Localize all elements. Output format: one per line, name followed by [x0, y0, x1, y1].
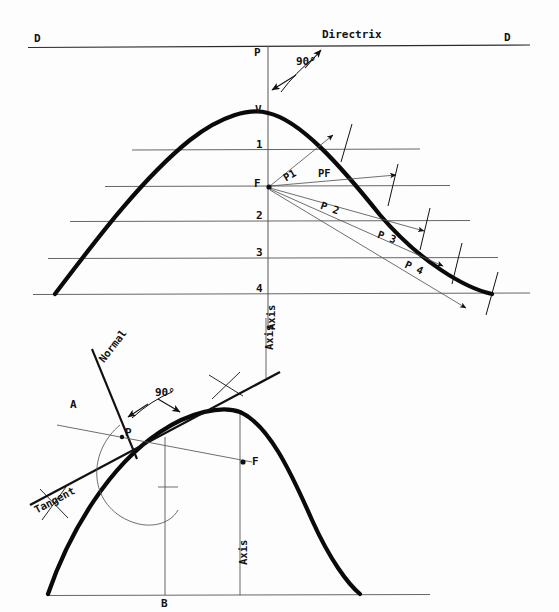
- label-focus-F-lower: F: [252, 455, 259, 468]
- label-directrix: Directrix: [322, 28, 382, 41]
- label-ordinate-2: 2: [256, 209, 263, 222]
- parabola-curve-upper: [55, 111, 492, 294]
- label-ordinate-1: 1: [256, 138, 263, 151]
- parabola-construction-svg: [0, 0, 559, 612]
- ordinate-line-2: [70, 221, 470, 222]
- label-angle-90-upper: 90°: [296, 55, 316, 68]
- label-axis-lower-top: Axis: [263, 325, 275, 350]
- ordinate-line-4: [33, 293, 530, 295]
- label-vertex-V: V: [255, 103, 262, 116]
- directrix-line: [28, 45, 530, 48]
- point-P-lower: [120, 435, 124, 439]
- parabola-curve-lower: [48, 409, 360, 594]
- ray-P2: [270, 188, 424, 231]
- tick-mark-2: [388, 164, 398, 206]
- tick-mark-1: [341, 124, 352, 162]
- lower-diagram: [30, 318, 430, 596]
- drawing-canvas: D Directrix D P 90° V 1 F 2 3 4 Axis P1 …: [0, 0, 559, 612]
- ordinate-line-3: [48, 258, 498, 259]
- label-focus-F-upper: F: [254, 177, 261, 190]
- label-point-P-lower: P: [125, 426, 132, 439]
- label-base-B: B: [161, 597, 168, 610]
- focus-point-lower: [240, 459, 245, 464]
- right-angle-arrow-left: [128, 404, 148, 417]
- normal-line: [92, 349, 137, 459]
- label-ray-PF: PF: [318, 167, 331, 179]
- ray-P3: [270, 189, 443, 266]
- label-directrix-right-D: D: [504, 31, 511, 44]
- label-ordinate-3: 3: [256, 246, 263, 259]
- label-point-P-upper: P: [254, 46, 261, 59]
- line-A-P-F: [57, 425, 252, 462]
- baseline-lower: [48, 595, 430, 596]
- label-ordinate-4: 4: [256, 282, 263, 295]
- label-point-A: A: [70, 398, 77, 411]
- label-axis-lower: Axis: [237, 540, 249, 565]
- tick-mark-3: [420, 208, 430, 250]
- right-angle-arrow-right: [158, 399, 180, 412]
- upper-diagram: [28, 45, 530, 330]
- label-directrix-left-D: D: [34, 32, 41, 45]
- focus-point-upper: [266, 184, 271, 189]
- ray-P4: [270, 190, 466, 308]
- label-angle-90-lower: 90°: [155, 386, 175, 399]
